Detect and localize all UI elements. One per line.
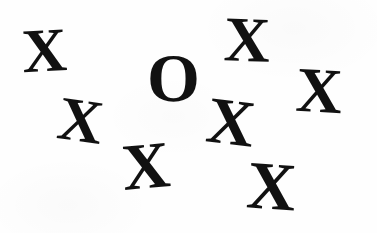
letter-x-top-left: X [20,19,68,83]
letter-x-bottom-right: X [245,150,299,221]
visual-search-canvas: X X O X X X X X [0,0,377,233]
letter-x-left-middle: X [54,87,107,155]
letter-x-bottom-center: X [119,132,172,202]
letter-x-top-right: X [223,7,271,73]
letter-o-target: O [147,44,200,112]
letter-x-far-right: X [294,58,344,124]
